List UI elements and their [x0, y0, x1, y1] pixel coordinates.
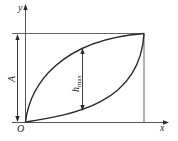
y-axis-label: y	[17, 2, 23, 13]
hysteresis-diagram: y x O A hmax	[0, 0, 178, 141]
hmax-label: hmax	[70, 74, 83, 92]
x-axis-label: x	[159, 122, 165, 133]
hmax-label-sub: max	[75, 74, 83, 87]
amplitude-label: A	[6, 75, 17, 83]
svg-text:hmax: hmax	[70, 74, 83, 92]
origin-label: O	[17, 123, 24, 134]
